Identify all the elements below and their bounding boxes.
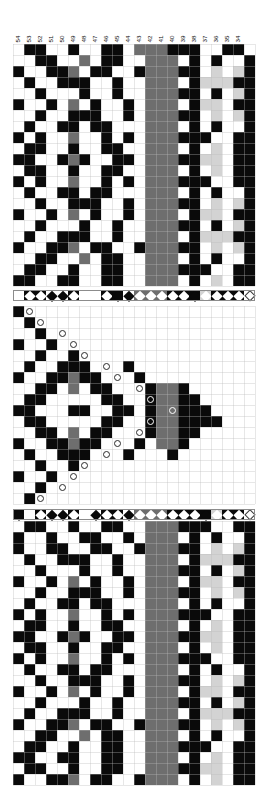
draft-cell[interactable] — [222, 361, 233, 372]
draft-cell[interactable] — [79, 576, 90, 587]
draft-cell[interactable] — [178, 752, 189, 763]
draft-cell[interactable] — [35, 383, 46, 394]
draft-cell[interactable] — [13, 88, 24, 99]
draft-cell[interactable] — [24, 576, 35, 587]
treadling-marker-icon[interactable] — [147, 396, 154, 403]
draft-cell[interactable] — [222, 110, 233, 121]
draft-cell[interactable] — [90, 66, 101, 77]
draft-cell[interactable] — [134, 198, 145, 209]
draft-cell[interactable] — [134, 532, 145, 543]
draft-cell[interactable] — [112, 576, 123, 587]
draft-cell[interactable] — [46, 44, 57, 55]
draft-cell[interactable] — [189, 339, 200, 350]
treadling-marker-icon[interactable] — [70, 341, 77, 348]
draft-cell[interactable] — [145, 774, 156, 785]
draft-cell[interactable] — [244, 165, 255, 176]
draft-cell[interactable] — [13, 242, 24, 253]
draft-cell[interactable] — [90, 361, 101, 372]
draft-cell[interactable] — [35, 132, 46, 143]
draft-cell[interactable] — [13, 220, 24, 231]
draft-cell[interactable] — [167, 231, 178, 242]
draft-cell[interactable] — [24, 697, 35, 708]
draft-cell[interactable] — [189, 642, 200, 653]
draft-cell[interactable] — [79, 77, 90, 88]
draft-cell[interactable] — [68, 165, 79, 176]
draft-cell[interactable] — [57, 686, 68, 697]
draft-cell[interactable] — [145, 587, 156, 598]
draft-cell[interactable] — [57, 653, 68, 664]
draft-cell[interactable] — [57, 383, 68, 394]
draft-cell[interactable] — [233, 350, 244, 361]
draft-cell[interactable] — [57, 55, 68, 66]
draft-cell[interactable] — [145, 187, 156, 198]
draft-cell[interactable] — [233, 383, 244, 394]
draft-cell[interactable] — [222, 198, 233, 209]
draft-cell[interactable] — [211, 631, 222, 642]
draft-cell[interactable] — [123, 253, 134, 264]
draft-cell[interactable] — [189, 317, 200, 328]
draft-cell[interactable] — [13, 675, 24, 686]
draft-cell[interactable] — [57, 132, 68, 143]
draft-cell[interactable] — [68, 416, 79, 427]
draft-cell[interactable] — [24, 242, 35, 253]
draft-cell[interactable] — [112, 543, 123, 554]
draft-cell[interactable] — [123, 763, 134, 774]
draft-cell[interactable] — [200, 653, 211, 664]
draft-cell[interactable] — [167, 438, 178, 449]
draft-cell[interactable] — [57, 521, 68, 532]
draft-cell[interactable] — [46, 763, 57, 774]
draft-cell[interactable] — [156, 449, 167, 460]
draft-cell[interactable] — [90, 565, 101, 576]
draft-cell[interactable] — [167, 449, 178, 460]
draft-cell[interactable] — [79, 121, 90, 132]
draft-cell[interactable] — [134, 405, 145, 416]
draft-cell[interactable] — [112, 198, 123, 209]
draft-cell[interactable] — [233, 405, 244, 416]
draft-cell[interactable] — [68, 253, 79, 264]
draft-cell[interactable] — [167, 220, 178, 231]
draft-cell[interactable] — [200, 532, 211, 543]
draft-cell[interactable] — [244, 752, 255, 763]
draft-cell[interactable] — [211, 187, 222, 198]
draft-cell[interactable] — [156, 427, 167, 438]
draft-cell[interactable] — [79, 752, 90, 763]
draft-cell[interactable] — [79, 438, 90, 449]
draft-cell[interactable] — [68, 306, 79, 317]
draft-cell[interactable] — [134, 752, 145, 763]
draft-cell[interactable] — [167, 416, 178, 427]
draft-cell[interactable] — [134, 416, 145, 427]
draft-cell[interactable] — [57, 77, 68, 88]
draft-cell[interactable] — [167, 774, 178, 785]
draft-cell[interactable] — [244, 438, 255, 449]
draft-cell[interactable] — [123, 405, 134, 416]
draft-cell[interactable] — [101, 631, 112, 642]
draft-cell[interactable] — [79, 416, 90, 427]
draft-cell[interactable] — [244, 664, 255, 675]
draft-cell[interactable] — [112, 110, 123, 121]
draft-cell[interactable] — [200, 620, 211, 631]
draft-cell[interactable] — [134, 565, 145, 576]
draft-cell[interactable] — [145, 719, 156, 730]
draft-cell[interactable] — [57, 372, 68, 383]
draft-cell[interactable] — [200, 763, 211, 774]
draft-cell[interactable] — [222, 187, 233, 198]
draft-cell[interactable] — [35, 372, 46, 383]
draft-cell[interactable] — [123, 675, 134, 686]
draft-cell[interactable] — [24, 187, 35, 198]
draft-cell[interactable] — [123, 653, 134, 664]
draft-cell[interactable] — [90, 708, 101, 719]
draft-cell[interactable] — [156, 482, 167, 493]
draft-cell[interactable] — [244, 405, 255, 416]
draft-cell[interactable] — [189, 264, 200, 275]
draft-cell[interactable] — [244, 317, 255, 328]
draft-cell[interactable] — [112, 620, 123, 631]
draft-cell[interactable] — [24, 231, 35, 242]
draft-cell[interactable] — [13, 176, 24, 187]
draft-cell[interactable] — [90, 242, 101, 253]
draft-cell[interactable] — [178, 44, 189, 55]
draft-cell[interactable] — [189, 383, 200, 394]
draft-cell[interactable] — [90, 143, 101, 154]
draft-cell[interactable] — [46, 405, 57, 416]
draft-cell[interactable] — [222, 752, 233, 763]
draft-cell[interactable] — [200, 719, 211, 730]
